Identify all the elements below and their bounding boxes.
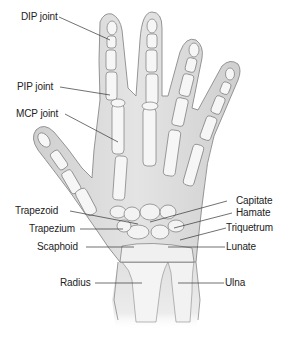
label-mcp-joint: MCP joint bbox=[16, 108, 58, 120]
label-hamate: Hamate bbox=[236, 207, 270, 219]
forearm bbox=[112, 262, 200, 330]
label-scaphoid: Scaphoid bbox=[37, 241, 78, 253]
label-dip-joint: DIP joint bbox=[21, 11, 58, 23]
label-pip-joint: PIP joint bbox=[17, 81, 53, 93]
label-trapezoid: Trapezoid bbox=[15, 205, 58, 217]
hand-anatomy-diagram: DIP joint PIP joint MCP joint Trapezoid … bbox=[0, 0, 288, 337]
label-capitate: Capitate bbox=[236, 195, 272, 207]
label-triquetrum: Triquetrum bbox=[226, 222, 273, 234]
label-trapezium: Trapezium bbox=[29, 223, 75, 235]
label-ulna: Ulna bbox=[225, 277, 245, 289]
label-radius: Radius bbox=[60, 277, 91, 289]
label-lunate: Lunate bbox=[226, 241, 256, 253]
